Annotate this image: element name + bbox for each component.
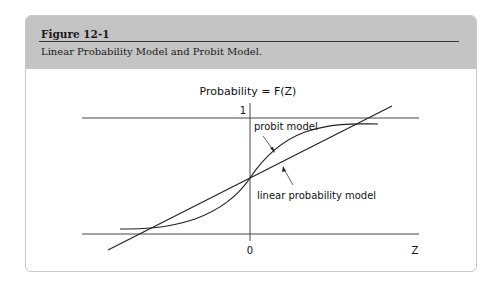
chart-title: Probability = F(Z) (200, 85, 297, 98)
probit-label: probit model (254, 121, 318, 132)
x-axis-label: Z (412, 245, 419, 256)
linear-label: linear probability model (257, 190, 376, 201)
y-tick-1: 1 (240, 105, 246, 116)
probit-curve (120, 124, 378, 229)
linear-arrowhead (282, 166, 286, 172)
linear-arrow (284, 169, 293, 185)
x-tick-0: 0 (247, 245, 253, 256)
chart: Probability = F(Z) 1 0 Z probit model li… (0, 0, 502, 289)
